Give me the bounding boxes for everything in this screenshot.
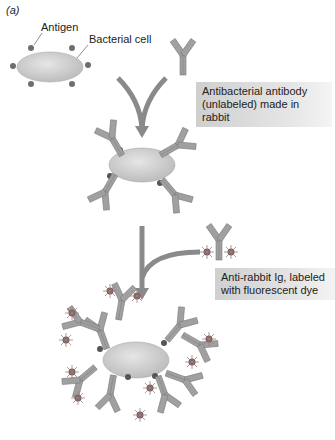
labeled-anti-rabbit-ig-icon: [200, 224, 238, 260]
step2-caption: Anti-rabbit Ig, labeled with fluorescent…: [215, 268, 335, 300]
rabbit-antibody-icon: [170, 39, 196, 75]
merge-arrow-2: [142, 226, 200, 290]
step1-line1: Antibacterial antibody: [202, 85, 326, 98]
step1-caption: Antibacterial antibody (unlabeled) made …: [196, 82, 332, 127]
step2-line1: Anti-rabbit Ig, labeled: [221, 271, 329, 284]
bacterial-cell-label: Bacterial cell: [89, 33, 151, 45]
antigen-label: Antigen: [41, 21, 78, 33]
bacterial-cell-bottom: [59, 282, 221, 422]
step1-line2: (unlabeled) made in rabbit: [202, 98, 326, 124]
bacterial-cell-top: [10, 33, 91, 87]
merge-arrow-1: [118, 78, 166, 128]
step2-line2: with fluorescent dye: [221, 284, 329, 297]
